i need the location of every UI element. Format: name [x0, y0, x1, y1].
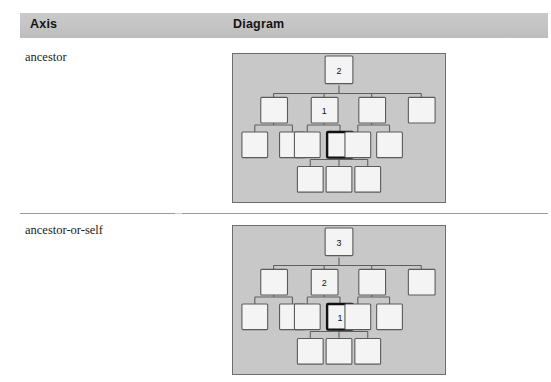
svg-text:2: 2 — [337, 66, 342, 76]
table-header-band: Axis Diagram — [20, 13, 548, 38]
tree-node: 2 — [311, 269, 338, 295]
svg-text:1: 1 — [322, 106, 327, 116]
tree-nodes: 3 2 1 — [242, 228, 435, 364]
table-row: ancestor-or-self — [0, 213, 551, 382]
row-divider — [20, 213, 548, 214]
table-row: ancestor — [0, 40, 551, 213]
tree-diagram-ancestor-or-self: 3 2 1 — [232, 225, 446, 375]
tree-node — [377, 132, 403, 158]
tree-node — [261, 97, 288, 123]
tree-node — [294, 132, 320, 158]
tree-node — [326, 338, 352, 364]
axis-name-label: ancestor — [25, 50, 67, 65]
tree-node — [408, 97, 435, 123]
svg-text:1: 1 — [338, 313, 343, 323]
tree-node — [326, 166, 352, 192]
tree-diagram-ancestor: 2 1 — [232, 53, 446, 203]
svg-text:2: 2 — [322, 278, 327, 288]
tree-node — [345, 132, 371, 158]
tree-node — [359, 269, 386, 295]
svg-text:3: 3 — [337, 238, 342, 248]
tree-diagram-canvas: 2 1 — [233, 54, 445, 202]
tree-node — [355, 338, 381, 364]
tree-node — [261, 269, 288, 295]
tree-node — [408, 269, 435, 295]
tree-node — [355, 166, 381, 192]
tree-node: 1 — [311, 97, 338, 123]
tree-diagram-canvas: 3 2 1 — [233, 226, 445, 374]
tree-node — [377, 304, 403, 330]
tree-node: 3 — [325, 228, 353, 256]
tree-node — [294, 304, 320, 330]
column-header-diagram: Diagram — [233, 17, 284, 31]
axis-name-label: ancestor-or-self — [25, 223, 103, 238]
tree-node: 2 — [325, 56, 353, 84]
tree-nodes: 2 1 — [242, 56, 435, 192]
tree-node — [242, 132, 268, 158]
tree-node — [359, 97, 386, 123]
tree-node — [297, 166, 323, 192]
tree-node — [242, 304, 268, 330]
tree-node — [297, 338, 323, 364]
tree-node — [345, 304, 371, 330]
column-header-axis: Axis — [30, 17, 57, 31]
